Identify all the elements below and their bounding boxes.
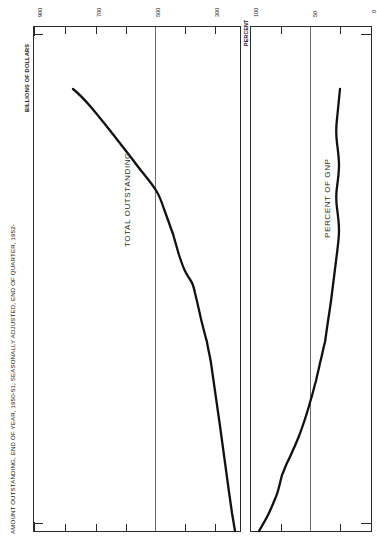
left-axis-tick-label-900: 900 (37, 8, 43, 17)
right-axis-tick-label-50: 50 (312, 11, 318, 17)
right-axis-tick-label-100: 100 (253, 8, 259, 17)
percent-of-gnp-line (251, 27, 373, 533)
figure-units-label: BILLIONS OF DOLLARS (24, 44, 30, 112)
right-series-label: PERCENT OF GNP (323, 158, 332, 238)
right-axis-unit-label: PERCENT (243, 19, 249, 46)
left-axis-tick-label-500: 500 (155, 8, 161, 17)
right-plot-panel (250, 26, 372, 532)
total-outstanding-line (34, 27, 242, 533)
left-series-label: TOTAL OUTSTANDING (123, 152, 132, 247)
left-plot-panel (33, 26, 241, 532)
figure-title: AMOUNT OUTSTANDING, END OF YEAR, 1950-51… (9, 224, 16, 534)
left-axis-tick-label-300: 300 (214, 8, 220, 17)
right-axis-tick-label-0: 0 (371, 10, 377, 13)
left-axis-tick-label-700: 700 (96, 8, 102, 17)
